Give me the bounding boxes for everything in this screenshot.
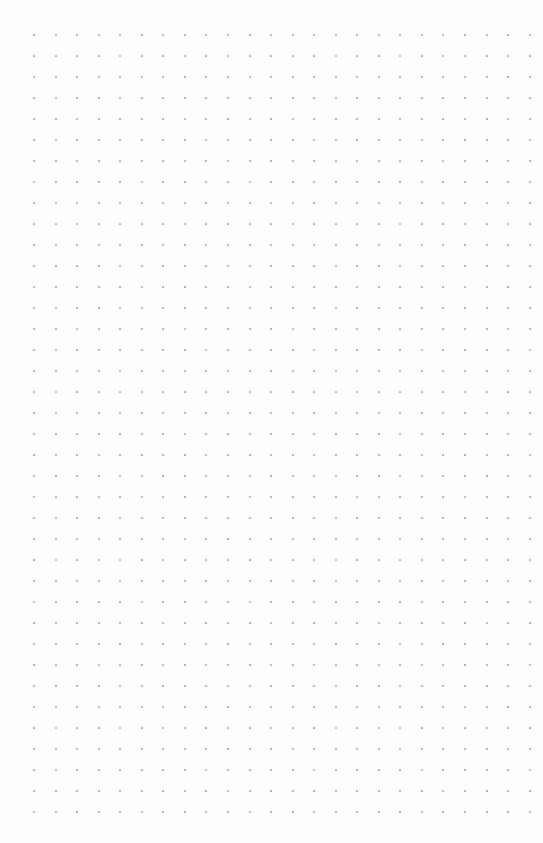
- dot-grid-page: [0, 0, 543, 843]
- top-margin: [0, 0, 543, 34]
- paper-surface: [0, 0, 543, 843]
- right-margin: [529, 0, 543, 843]
- left-margin: [0, 0, 33, 843]
- bottom-margin: [0, 811, 543, 843]
